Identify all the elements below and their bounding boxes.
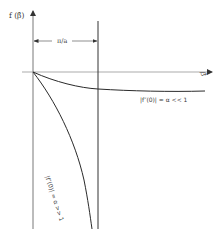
large-alpha-curve — [33, 72, 92, 229]
diagram-canvas — [0, 0, 218, 229]
dimension-label: π/a — [57, 38, 67, 45]
small-alpha-curve — [33, 72, 205, 91]
x-axis-label: β̂ — [199, 72, 206, 76]
small-alpha-label: |f″(0)| = α << 1 — [140, 97, 187, 103]
y-axis-label: f (β̂) — [9, 12, 24, 20]
